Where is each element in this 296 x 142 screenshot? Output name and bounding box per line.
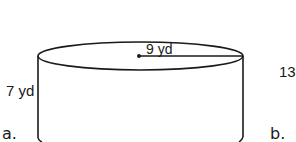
figure-b-label: b.: [270, 126, 285, 142]
height-label: 7 yd: [6, 83, 34, 98]
figure-b-value: 13: [279, 64, 296, 79]
figure-a-label: a.: [2, 126, 17, 142]
radius-label: 9 yd: [146, 42, 172, 56]
center-point: [137, 54, 141, 58]
cylinder-diagram: [0, 0, 296, 142]
cylinder-left-foot: [38, 138, 42, 142]
cylinder-right-foot: [239, 137, 243, 142]
